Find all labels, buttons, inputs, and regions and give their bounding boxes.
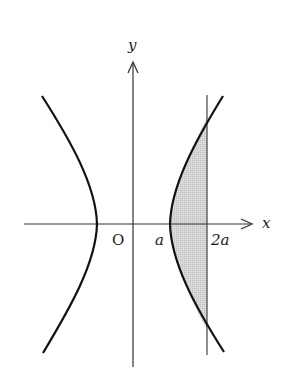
x-axis-label: x [262,214,271,232]
tick-label-2a: 2a [210,231,230,249]
diagram-canvas: y x O a 2a [0,0,281,377]
y-axis-label: y [127,36,137,54]
origin-label: O [112,231,124,249]
tick-label-a: a [155,231,164,249]
y-axis [128,62,138,367]
x-axis [24,219,252,229]
